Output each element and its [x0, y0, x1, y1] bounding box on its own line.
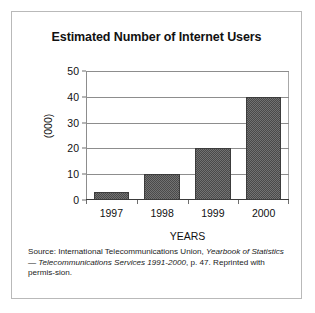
x-tick-label: 1997 [100, 207, 123, 219]
x-axis-label: YEARS [86, 230, 289, 242]
figure-frame: Estimated Number of Internet Users (000)… [11, 11, 302, 299]
source-publication-subtitle: Telecommunications Services 1991-2000 [38, 258, 186, 267]
y-tick-mark [82, 122, 86, 123]
gridline [86, 71, 289, 72]
y-tick-label: 20 [67, 142, 79, 154]
x-tick-mark [137, 200, 138, 204]
source-note: Source: International Telecommunications… [28, 247, 287, 279]
y-tick-mark [82, 71, 86, 72]
plot-right-edge [288, 71, 289, 200]
source-dash: — [28, 258, 38, 267]
x-tick-label: 1999 [201, 207, 224, 219]
source-line-1: Source: International Telecommunications… [28, 247, 284, 256]
bar-1997 [94, 192, 130, 200]
source-line-3: sion. [55, 268, 72, 277]
x-tick-mark [288, 200, 289, 204]
y-tick-label: 10 [67, 168, 79, 180]
bar-1998 [144, 174, 180, 200]
y-tick-label: 30 [67, 117, 79, 129]
y-tick-mark [82, 174, 86, 175]
x-tick-mark [188, 200, 189, 204]
plot-area: 010203040501997199819992000 [86, 71, 289, 200]
y-tick-label: 0 [73, 194, 79, 206]
bar-2000 [246, 97, 282, 200]
source-prefix: Source: International Telecommunications… [28, 247, 206, 256]
x-tick-mark [86, 200, 87, 204]
x-tick-label: 2000 [252, 207, 275, 219]
y-tick-mark [82, 96, 86, 97]
y-axis-label: (000) [42, 106, 54, 146]
y-tick-label: 40 [67, 91, 79, 103]
x-tick-mark [238, 200, 239, 204]
source-publication-title: Yearbook of Statistics [206, 247, 284, 256]
x-tick-label: 1998 [150, 207, 173, 219]
y-tick-label: 50 [67, 65, 79, 77]
bar-1999 [195, 148, 231, 200]
y-tick-mark [82, 148, 86, 149]
y-axis-line [86, 71, 87, 200]
